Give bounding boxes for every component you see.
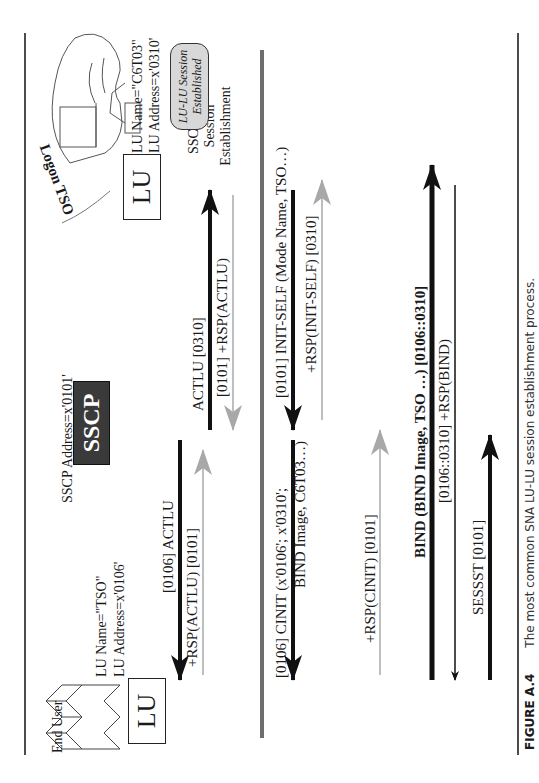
right-lu-name: LU Name="C6T03" [130, 39, 146, 153]
label-cinit-line2: BIND Image, C6T03…) [292, 441, 309, 588]
label-cinit: [0106] CINIT (x'0106'; x'0310'; [273, 488, 290, 678]
session-established-badge: LU-LU Session Established [170, 43, 209, 130]
label-rsp-actlu-left: +RSP(ACTLU) [0101] [184, 528, 201, 667]
left-lu-box-label: LU [132, 694, 162, 729]
figure-label: FIGURE A.4 [523, 674, 537, 750]
label-actlu-right: ACTLU [0310] [190, 317, 207, 411]
left-lu-address: LU Address=x'0106' [112, 562, 128, 677]
label-init-self: [0101] INIT-SELF (Mode Name, TSO…) [273, 147, 290, 398]
figure-caption-text: The most common SNA LU-LU session establ… [523, 278, 537, 648]
badge-line2: Established [190, 59, 204, 115]
badge-line1: LU-LU Session [176, 50, 190, 124]
label-bind: BIND (BIND Image, TSO …) [0106::0310] [412, 286, 429, 558]
label-actlu-left: [0106] ACTLU [160, 500, 177, 593]
right-lu-box: LU [123, 154, 161, 220]
right-lu-address: LU Address=x'0310' [147, 38, 163, 153]
label-rsp-init-self: +RSP(INIT-SELF) [0310] [303, 216, 320, 374]
label-rsp-cinit: +RSP(CINIT) [0101] [362, 514, 379, 643]
sscp-box: SSCP [73, 381, 110, 465]
left-lu-name: LU Name="TSO" [94, 576, 110, 677]
label-rsp-bind: [0106::0310] +RSP(BIND) [436, 339, 453, 503]
label-rsp-actlu-right: [0101] +RSP(ACTLU) [214, 258, 231, 397]
diagram-stage: End User LU Name="TSO" LU Address=x'0106… [0, 0, 539, 783]
end-user-label: End User [50, 701, 66, 754]
right-lu-box-label: LU [127, 170, 157, 205]
figure-caption: FIGURE A.4 The most common SNA LU-LU ses… [520, 278, 538, 750]
label-sessst: SESSST [0101] [470, 520, 487, 615]
sscp-box-label: SSCP [78, 394, 105, 453]
phase-label-line3: Establishment [218, 66, 234, 186]
left-lu-box: LU [128, 678, 166, 744]
